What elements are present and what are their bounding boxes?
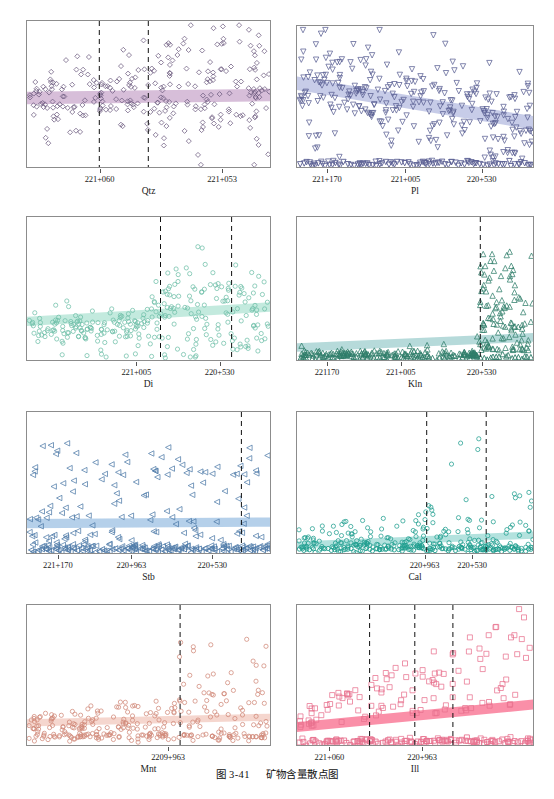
data-point — [395, 524, 399, 528]
data-point — [226, 320, 230, 324]
data-point — [137, 336, 141, 340]
data-point — [247, 296, 251, 300]
data-point — [433, 137, 438, 142]
data-point — [215, 464, 220, 469]
data-point — [193, 699, 197, 703]
data-point — [214, 340, 218, 344]
data-point — [99, 348, 103, 352]
data-point — [67, 305, 71, 309]
data-point — [381, 516, 385, 520]
data-point — [74, 67, 79, 72]
data-point — [328, 102, 333, 107]
data-point — [500, 737, 505, 742]
data-point — [55, 337, 59, 341]
data-point — [527, 90, 532, 95]
data-point — [421, 77, 426, 82]
x-axis: 221+170220+963220+530 — [26, 555, 271, 569]
x-axis-tick-label: 221+060 — [315, 752, 345, 762]
data-point — [162, 136, 167, 141]
panel-title-stb: Stb — [26, 572, 271, 582]
data-point — [167, 62, 172, 67]
data-point — [126, 71, 131, 76]
data-point — [37, 329, 41, 333]
data-point — [512, 290, 517, 295]
data-point — [413, 671, 418, 676]
data-point — [237, 23, 242, 28]
data-point — [231, 688, 235, 692]
data-point — [306, 134, 311, 139]
data-point — [172, 737, 176, 741]
data-point — [93, 460, 98, 465]
data-point — [192, 347, 196, 351]
data-point — [247, 445, 252, 450]
data-point — [501, 134, 506, 139]
data-point — [512, 492, 516, 496]
data-point — [478, 656, 483, 661]
data-point — [264, 644, 268, 648]
data-point — [209, 536, 214, 541]
data-point — [515, 740, 520, 745]
data-point — [185, 337, 189, 341]
data-point — [500, 351, 505, 356]
data-point — [313, 42, 318, 47]
data-point — [234, 471, 239, 476]
data-point — [48, 443, 53, 448]
data-point — [203, 326, 207, 330]
data-point — [124, 459, 129, 464]
data-point — [243, 300, 247, 304]
data-point — [373, 676, 378, 681]
data-point — [61, 324, 65, 328]
x-axis: 2209+963 — [26, 747, 271, 761]
data-point — [405, 84, 410, 89]
data-point — [198, 162, 203, 167]
data-point — [129, 538, 134, 543]
data-point — [204, 316, 208, 320]
data-point — [246, 456, 251, 461]
plot-area — [26, 216, 271, 361]
data-point — [245, 338, 249, 342]
data-point — [251, 49, 256, 54]
data-point — [137, 332, 141, 336]
data-point — [420, 668, 425, 673]
data-point — [380, 124, 385, 129]
data-point — [391, 704, 396, 709]
data-point — [244, 480, 249, 485]
data-point — [164, 508, 169, 513]
data-point — [196, 152, 201, 157]
data-point — [369, 53, 374, 58]
scatter-panel-pl: 221+170221+005220+530Pl — [296, 25, 534, 200]
scatter-canvas — [297, 26, 534, 168]
data-point — [166, 55, 171, 60]
data-point — [256, 692, 260, 696]
data-point — [386, 117, 391, 122]
data-point — [259, 534, 264, 539]
data-point — [143, 725, 147, 729]
data-point — [133, 479, 138, 484]
x-axis-tick-label: 220+963 — [410, 560, 440, 570]
x-axis-tick-label: 220+530 — [205, 367, 235, 377]
x-axis-tick-label: 221+005 — [121, 367, 151, 377]
data-point — [142, 67, 147, 72]
data-point — [118, 700, 122, 704]
panel-title-pl: Pl — [296, 186, 534, 196]
data-point — [87, 532, 92, 537]
data-point — [263, 337, 267, 341]
data-point — [64, 58, 69, 63]
data-point — [307, 548, 311, 552]
data-point — [124, 354, 128, 358]
data-point — [73, 712, 77, 716]
plot-area — [296, 604, 534, 746]
data-point — [527, 490, 531, 494]
data-point — [165, 710, 169, 714]
data-point — [203, 705, 207, 709]
data-point — [254, 109, 259, 114]
data-point — [482, 136, 487, 141]
x-axis: 221+170221+005220+530 — [296, 169, 534, 183]
data-point — [193, 534, 198, 539]
data-point — [121, 47, 126, 52]
data-point — [529, 499, 533, 503]
data-point — [503, 345, 508, 350]
data-point — [159, 120, 164, 125]
data-point — [166, 335, 170, 339]
data-point — [128, 513, 133, 518]
